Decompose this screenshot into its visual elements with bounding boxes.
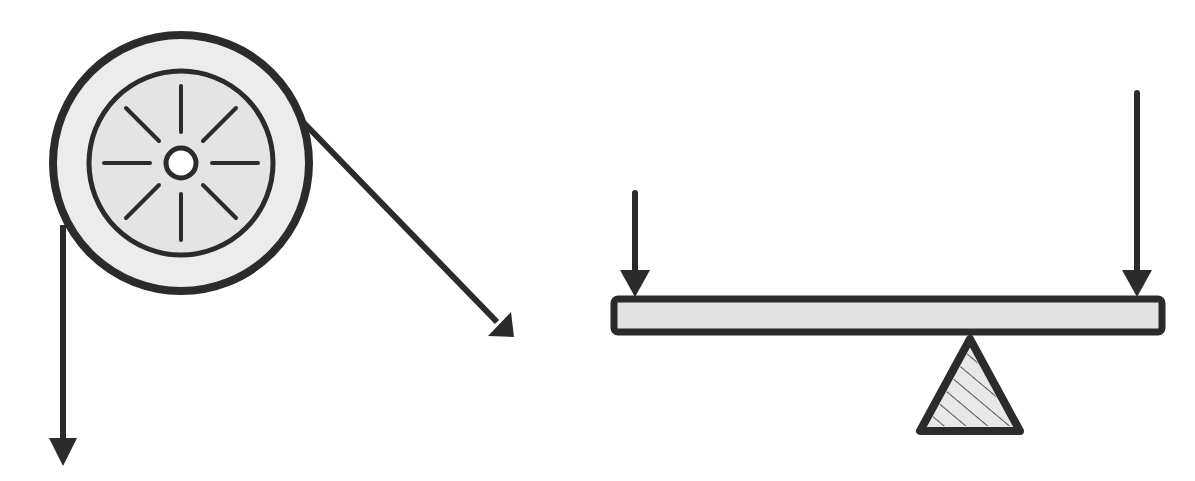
right-rope-arrow-icon xyxy=(302,121,514,337)
lever-beam xyxy=(614,299,1162,332)
pulley xyxy=(49,35,514,466)
lever xyxy=(614,93,1162,431)
right-effort-arrow-icon xyxy=(1122,93,1152,297)
simple-machines-diagram xyxy=(0,0,1195,481)
left-rope-arrow-icon xyxy=(49,225,77,466)
fulcrum-icon xyxy=(920,339,1020,431)
pulley-hub-icon xyxy=(166,148,196,178)
left-load-arrow-icon xyxy=(620,193,650,297)
